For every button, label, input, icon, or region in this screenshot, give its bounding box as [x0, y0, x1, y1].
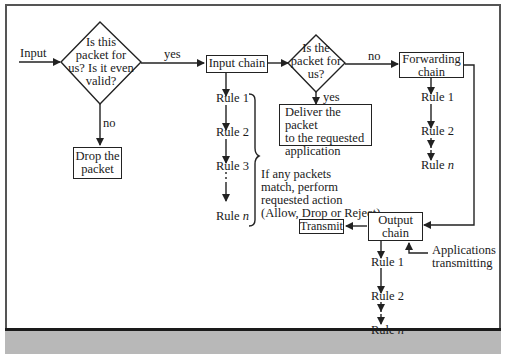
drop-packet-box: Drop the packet — [73, 147, 122, 179]
output-rule-n: Rule n — [371, 324, 404, 337]
decision1-line: valid? — [65, 75, 137, 88]
rule-text: Rule — [371, 323, 395, 337]
forwarding-chain-box: Forwarding chain — [399, 52, 464, 78]
decision-valid-packet: Is this packet for us? Is it even valid? — [65, 36, 137, 88]
deliver-box-line: Deliver the packet — [285, 106, 371, 132]
rule-n-var: n — [398, 323, 404, 337]
input-label: Input — [20, 47, 46, 60]
input-chain-box: Input chain — [206, 55, 268, 73]
decision2-no-label: no — [368, 50, 381, 63]
decision2-line: us? — [284, 68, 348, 81]
forward-rule-n: Rule n — [421, 159, 454, 172]
deliver-box-line: application — [285, 145, 371, 158]
applications-transmitting-note: Applications transmitting — [432, 244, 496, 270]
decision2-yes-label: yes — [323, 91, 340, 104]
input-rule-1: Rule 1 — [216, 92, 249, 105]
decision-packet-for-us: Is the packet for us? — [284, 42, 348, 81]
output-rule-2: Rule 2 — [371, 290, 404, 303]
input-rule-n: Rule n — [216, 210, 249, 223]
transmit-box: Transmit — [299, 219, 344, 234]
deliver-packet-box: Deliver the packet to the requested appl… — [279, 104, 372, 146]
apps-line: transmitting — [432, 257, 496, 270]
output-chain-box: Output chain — [368, 212, 423, 241]
rule-text: Rule — [216, 209, 240, 223]
rule-text: Rule — [421, 158, 445, 172]
forwarding-line: chain — [400, 66, 463, 79]
rule-n-var: n — [243, 209, 249, 223]
decision1-yes-label: yes — [164, 48, 181, 61]
rule-n-var: n — [448, 158, 454, 172]
output-rule-1: Rule 1 — [371, 256, 404, 269]
forward-rule-2: Rule 2 — [421, 125, 454, 138]
input-rule-3: Rule 3 — [216, 160, 249, 173]
decision1-no-label: no — [103, 117, 116, 130]
forward-rule-1: Rule 1 — [421, 91, 454, 104]
rule-action-note: If any packets match, perform requested … — [261, 168, 380, 220]
drop-box-line: packet — [74, 163, 121, 176]
input-rule-2: Rule 2 — [216, 126, 249, 139]
output-line: chain — [369, 227, 422, 240]
